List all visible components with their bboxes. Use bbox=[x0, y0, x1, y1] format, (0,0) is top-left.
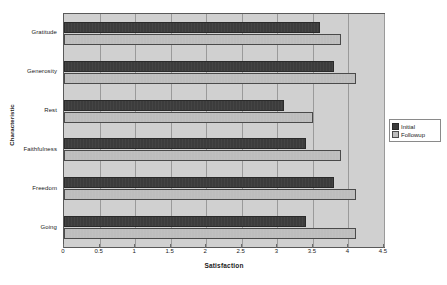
plot-area bbox=[63, 13, 385, 248]
x-axis-tick-label: 0.5 bbox=[94, 248, 102, 254]
x-axis-tick-labels: 00.511.522.533.544.5 bbox=[63, 248, 385, 260]
bar-initial bbox=[64, 216, 306, 227]
legend-item-initial[interactable]: Initial bbox=[392, 123, 438, 130]
x-axis-tick-label: 1 bbox=[132, 248, 135, 254]
bar-initial bbox=[64, 138, 306, 149]
bar-group bbox=[64, 14, 384, 53]
bar-chart: Characteristic GratitudeGenerosityRestFa… bbox=[0, 0, 447, 285]
bar-group bbox=[64, 208, 384, 247]
x-axis-tick-label: 4.5 bbox=[379, 248, 387, 254]
y-axis-tick-label: Going bbox=[20, 207, 60, 246]
bar-group bbox=[64, 130, 384, 169]
x-axis-tick-label: 2.5 bbox=[237, 248, 245, 254]
y-axis-title: Characteristic bbox=[2, 0, 22, 250]
x-axis-tick-label: 3.5 bbox=[308, 248, 316, 254]
x-axis-tick-label: 2 bbox=[204, 248, 207, 254]
legend-swatch-icon bbox=[392, 131, 399, 138]
bar-initial bbox=[64, 100, 284, 111]
legend-item-followup[interactable]: Followup bbox=[392, 131, 438, 138]
bar-followup bbox=[64, 73, 356, 84]
bar-followup bbox=[64, 189, 356, 200]
bar-followup bbox=[64, 34, 341, 45]
y-axis-tick-label: Faithfulness bbox=[20, 129, 60, 168]
legend-label: Followup bbox=[401, 132, 425, 138]
x-axis-tick-label: 4 bbox=[346, 248, 349, 254]
legend-swatch-icon bbox=[392, 123, 399, 130]
bar-group bbox=[64, 53, 384, 92]
x-axis-tick-label: 1.5 bbox=[165, 248, 173, 254]
bar-initial bbox=[64, 61, 334, 72]
bar-group bbox=[64, 169, 384, 208]
y-axis-tick-label: Rest bbox=[20, 91, 60, 130]
y-axis-title-text: Characteristic bbox=[9, 104, 15, 145]
y-axis-tick-labels: GratitudeGenerosityRestFaithfulnessFreed… bbox=[20, 13, 60, 246]
bar-groups bbox=[64, 14, 384, 247]
gridline bbox=[384, 14, 385, 247]
bar-followup bbox=[64, 112, 313, 123]
x-axis-tick-label: 3 bbox=[275, 248, 278, 254]
bar-followup bbox=[64, 150, 341, 161]
y-axis-tick-label: Generosity bbox=[20, 52, 60, 91]
bar-initial bbox=[64, 177, 334, 188]
y-axis-tick-label: Freedom bbox=[20, 168, 60, 207]
y-axis-tick-label: Gratitude bbox=[20, 13, 60, 52]
x-axis-tick-label: 0 bbox=[61, 248, 64, 254]
bar-followup bbox=[64, 228, 356, 239]
chart-legend: InitialFollowup bbox=[389, 119, 441, 142]
bar-initial bbox=[64, 22, 320, 33]
legend-label: Initial bbox=[401, 124, 415, 130]
bar-group bbox=[64, 92, 384, 131]
x-axis-title: Satisfaction bbox=[63, 262, 385, 269]
